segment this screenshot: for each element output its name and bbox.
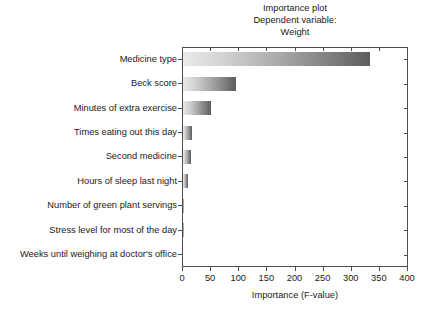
bar	[183, 126, 192, 140]
y-axis-tick-mark	[178, 83, 182, 84]
x-axis-tick-label: 150	[259, 272, 275, 284]
y-axis-tick-mark	[178, 108, 182, 109]
x-axis-tick-mark	[182, 267, 183, 271]
y-axis-tick-mark-right	[404, 108, 408, 109]
x-axis-tick-mark	[266, 267, 267, 271]
x-axis-tick-mark-top	[295, 47, 296, 51]
y-axis-label-text: Minutes of extra exercise	[74, 103, 182, 114]
x-axis-tick-mark-top	[407, 47, 408, 51]
chart-title: Importance plot	[182, 2, 408, 14]
y-axis-tick-mark	[178, 181, 182, 182]
y-axis-tick-mark-right	[404, 59, 408, 60]
y-axis-tick-label: Hours of sleep last night	[0, 169, 182, 193]
x-axis-tick-mark	[323, 267, 324, 271]
y-axis-tick-label: Medicine type	[0, 47, 182, 71]
y-axis-tick-label: Number of green plant servings	[0, 194, 182, 218]
y-axis-tick-mark-right	[404, 133, 408, 134]
y-axis-tick-mark	[178, 59, 182, 60]
y-axis-tick-label: Minutes of extra exercise	[0, 96, 182, 120]
chart-title-block: Importance plot Dependent variable: Weig…	[182, 2, 408, 38]
bar	[183, 150, 191, 164]
x-axis-tick-label: 350	[371, 272, 387, 284]
x-axis-tick-label: 400	[399, 272, 415, 284]
x-axis-title: Importance (F-value)	[182, 289, 408, 301]
x-axis-tick-labels: 050100150200250300350400	[182, 272, 408, 285]
y-axis-tick-mark-right	[404, 255, 408, 256]
y-axis-tick-mark-right	[404, 84, 408, 85]
x-axis-tick-mark	[295, 267, 296, 271]
bar	[183, 223, 184, 237]
x-axis-tick-label: 300	[343, 272, 359, 284]
x-axis-tick-mark-top	[238, 47, 239, 51]
bar	[183, 174, 188, 188]
y-axis-tick-mark	[178, 254, 182, 255]
chart-dependent-variable: Weight	[182, 26, 408, 38]
y-axis-tick-mark-right	[404, 157, 408, 158]
importance-plot-chart: Importance plot Dependent variable: Weig…	[0, 0, 428, 318]
x-axis-tick-mark	[210, 267, 211, 271]
bar	[183, 52, 370, 66]
x-axis-tick-label: 250	[315, 272, 331, 284]
chart-subtitle: Dependent variable:	[182, 14, 408, 26]
bars-layer	[183, 47, 408, 267]
y-axis-label-text: Times eating out this day	[74, 127, 182, 138]
y-axis-tick-mark-right	[404, 230, 408, 231]
x-axis-tick-mark	[379, 267, 380, 271]
x-axis-tick-mark	[351, 267, 352, 271]
y-axis-tick-mark	[178, 230, 182, 231]
y-axis-tick-mark	[178, 132, 182, 133]
y-axis-tick-label: Beck score	[0, 71, 182, 95]
y-axis-tick-mark	[178, 205, 182, 206]
x-axis-tick-mark-top	[182, 47, 183, 51]
x-axis-tick-mark-top	[351, 47, 352, 51]
y-axis-tick-label: Stress level for most of the day	[0, 218, 182, 242]
x-axis-tick-mark	[238, 267, 239, 271]
y-axis-label-text: Number of green plant servings	[47, 200, 182, 211]
x-axis-tick-label: 0	[179, 272, 184, 284]
y-axis-label-text: Second medicine	[106, 151, 182, 162]
y-axis-tick-label: Times eating out this day	[0, 120, 182, 144]
bar	[183, 101, 211, 115]
x-axis-tick-label: 50	[205, 272, 215, 284]
x-axis-tick-label: 100	[230, 272, 246, 284]
y-axis-tick-label: Weeks until weighing at doctor's office	[0, 243, 182, 267]
x-axis-tick-mark-top	[266, 47, 267, 51]
y-axis-tick-mark-right	[404, 206, 408, 207]
x-axis-tick-mark	[407, 267, 408, 271]
y-axis-tick-mark	[178, 156, 182, 157]
y-axis-tick-mark-right	[404, 181, 408, 182]
x-axis-tick-mark-top	[210, 47, 211, 51]
x-axis-tick-mark-top	[379, 47, 380, 51]
y-axis-label-text: Weeks until weighing at doctor's office	[20, 249, 182, 260]
y-axis-label-text: Stress level for most of the day	[49, 225, 182, 236]
bar	[183, 199, 184, 213]
y-axis-label-text: Beck score	[131, 78, 182, 89]
bar	[183, 77, 236, 91]
x-axis-tick-label: 200	[287, 272, 303, 284]
y-axis-label-text: Hours of sleep last night	[77, 176, 182, 187]
y-axis-tick-label: Second medicine	[0, 145, 182, 169]
x-axis-tick-mark-top	[323, 47, 324, 51]
y-axis-label-text: Medicine type	[120, 54, 182, 65]
y-axis-labels: Medicine typeBeck scoreMinutes of extra …	[0, 47, 182, 267]
